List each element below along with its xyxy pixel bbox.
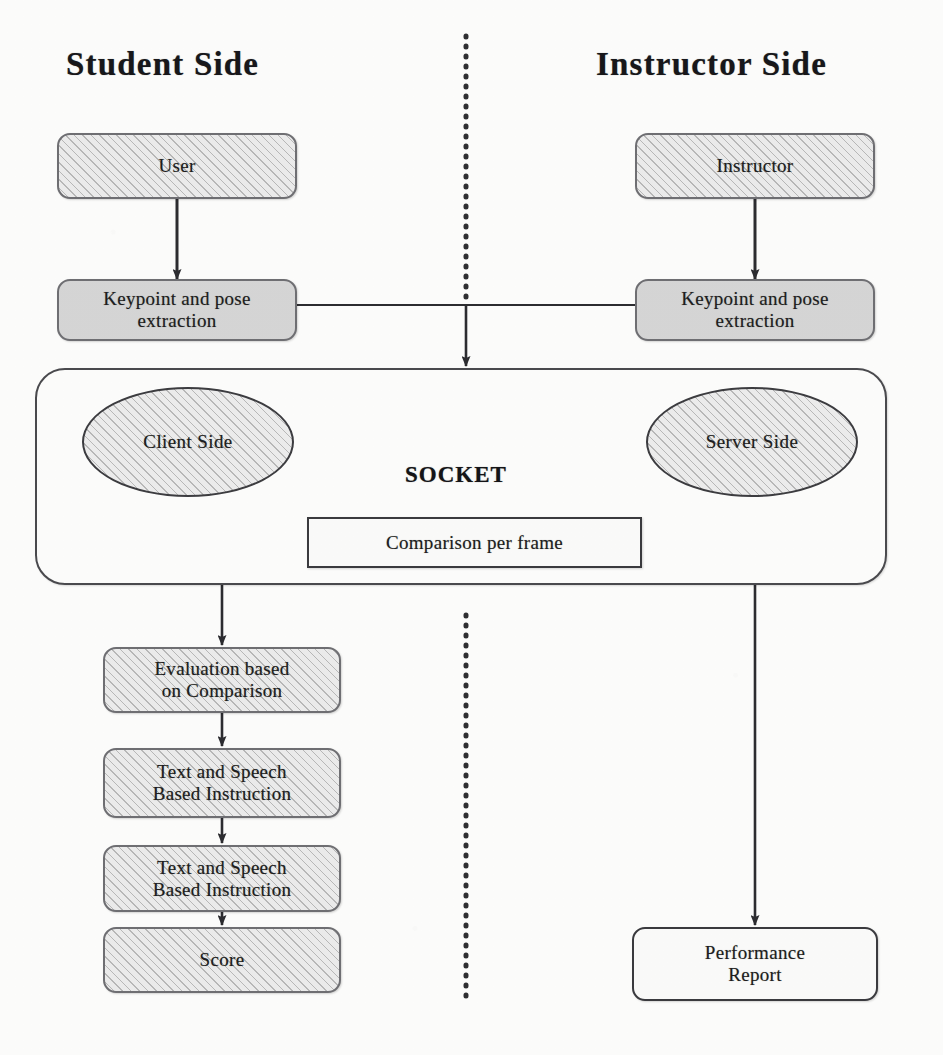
node-performance-report-line2: Report <box>728 964 782 986</box>
node-instructor-label: Instructor <box>717 155 794 177</box>
socket-label: SOCKET <box>405 462 507 488</box>
node-evaluation-line2: on Comparison <box>162 680 283 702</box>
node-keypoint-instructor-line2: extraction <box>716 310 795 332</box>
node-text-speech-1-line1: Text and Speech <box>157 761 287 783</box>
node-keypoint-student-line2: extraction <box>138 310 217 332</box>
node-keypoint-student-line1: Keypoint and pose <box>103 288 251 310</box>
page-title-student-side: Student Side <box>66 46 259 83</box>
node-keypoint-pose-extraction-student[interactable]: Keypoint and pose extraction <box>57 279 297 341</box>
node-performance-report[interactable]: Performance Report <box>632 927 878 1001</box>
node-client-side[interactable]: Client Side <box>82 387 294 497</box>
node-keypoint-pose-extraction-instructor[interactable]: Keypoint and pose extraction <box>635 279 875 341</box>
diagram-canvas: Student Side Instructor Side <box>0 0 943 1055</box>
node-client-side-label: Client Side <box>143 431 232 453</box>
node-user-label: User <box>158 155 195 177</box>
node-evaluation-line1: Evaluation based <box>154 658 289 680</box>
node-text-speech-2-line1: Text and Speech <box>157 857 287 879</box>
node-user[interactable]: User <box>57 133 297 199</box>
node-score-label: Score <box>200 949 245 971</box>
node-score[interactable]: Score <box>103 927 341 993</box>
node-evaluation-based-on-comparison[interactable]: Evaluation based on Comparison <box>103 647 341 713</box>
node-instructor[interactable]: Instructor <box>635 133 875 199</box>
node-comparison-per-frame[interactable]: Comparison per frame <box>307 517 642 568</box>
edge-keypoints-join-to-socket <box>296 305 636 366</box>
node-server-side[interactable]: Server Side <box>646 387 858 497</box>
node-keypoint-instructor-line1: Keypoint and pose <box>681 288 829 310</box>
page-title-instructor-side: Instructor Side <box>596 46 827 83</box>
node-text-speech-1-line2: Based Instruction <box>153 783 292 805</box>
node-server-side-label: Server Side <box>706 431 799 453</box>
node-performance-report-line1: Performance <box>705 942 805 964</box>
node-text-and-speech-based-instruction-2[interactable]: Text and Speech Based Instruction <box>103 845 341 912</box>
node-text-and-speech-based-instruction-1[interactable]: Text and Speech Based Instruction <box>103 748 341 818</box>
node-text-speech-2-line2: Based Instruction <box>153 879 292 901</box>
node-comparison-per-frame-label: Comparison per frame <box>386 532 563 554</box>
